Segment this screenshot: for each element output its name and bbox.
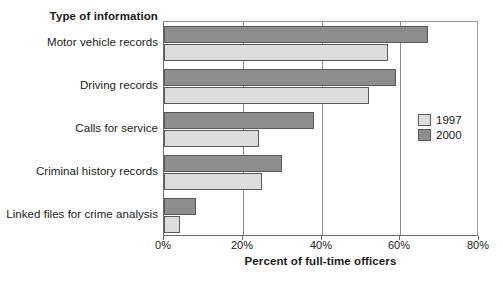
chart-legend: 1997 2000 (418, 112, 462, 142)
legend-label-1997: 1997 (436, 114, 462, 126)
x-tick-label: 60% (379, 239, 419, 251)
legend-label-2000: 2000 (436, 129, 462, 141)
bar-2000 (164, 26, 428, 43)
category-label: Criminal history records (0, 165, 158, 177)
legend-swatch-2000 (418, 129, 431, 141)
category-label: Linked files for crime analysis (0, 208, 158, 220)
bar-2000 (164, 69, 396, 86)
bar-1997 (164, 87, 369, 104)
category-label: Calls for service (0, 122, 158, 134)
gridline (400, 22, 401, 235)
x-tick-label: 20% (222, 239, 262, 251)
x-tick-label: 0% (143, 239, 183, 251)
x-axis-label: Percent of full-time officers (163, 255, 478, 267)
legend-item-1997: 1997 (418, 112, 462, 127)
bar-1997 (164, 216, 180, 233)
bar-2000 (164, 112, 314, 129)
bar-2000 (164, 155, 282, 172)
legend-swatch-1997 (418, 114, 431, 126)
category-label: Motor vehicle records (0, 36, 158, 48)
category-axis-title: Type of information (0, 10, 158, 22)
x-tick-label: 40% (301, 239, 341, 251)
legend-item-2000: 2000 (418, 127, 462, 142)
bar-2000 (164, 198, 196, 215)
bar-1997 (164, 173, 262, 190)
bar-1997 (164, 44, 388, 61)
x-tick-label: 80% (458, 239, 498, 251)
bar-chart-figure: Type of information Percent of full-time… (0, 0, 503, 283)
bar-1997 (164, 130, 259, 147)
category-label: Driving records (0, 79, 158, 91)
